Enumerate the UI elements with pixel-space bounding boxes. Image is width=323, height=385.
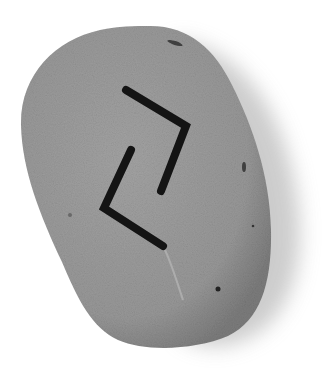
stone-speck (242, 162, 246, 172)
stone-speck (216, 287, 221, 292)
rune-stone-photo (0, 0, 323, 385)
stone-speck (68, 213, 72, 217)
photo-canvas: Grey pebble with a black painted rune re… (0, 0, 323, 385)
stone-speck (252, 225, 255, 228)
